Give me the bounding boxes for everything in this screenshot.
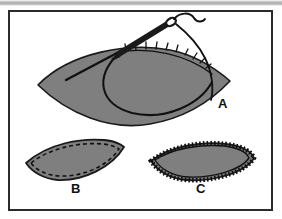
panel-label-a: A bbox=[218, 96, 228, 111]
sewing-illustration: A B C bbox=[0, 0, 282, 219]
panel-label-b: B bbox=[71, 181, 80, 196]
panel-label-c: C bbox=[196, 181, 206, 196]
figure-root: A B C bbox=[0, 0, 282, 219]
